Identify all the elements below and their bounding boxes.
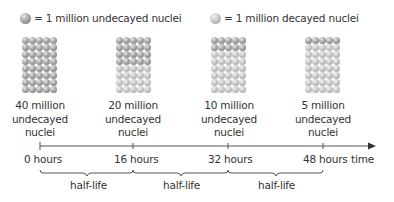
- tick-label-16h: 16 hours: [114, 153, 159, 165]
- half-life-label-1: half-life: [70, 179, 107, 191]
- timeline-axis: [0, 0, 394, 202]
- tick-label-32h: 32 hours: [208, 153, 253, 165]
- tick-label-48h: 48 hours: [303, 153, 348, 165]
- arrow-head-icon: [368, 143, 376, 150]
- axis-label-time: time: [351, 153, 374, 165]
- half-life-label-2: half-life: [163, 179, 200, 191]
- half-life-braces: [40, 170, 323, 176]
- tick-label-0h: 0 hours: [24, 153, 62, 165]
- half-life-label-3: half-life: [258, 179, 295, 191]
